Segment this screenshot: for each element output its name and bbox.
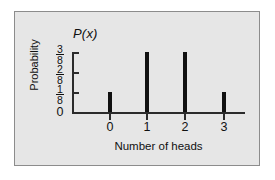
y-axis-title: Probability (28, 27, 40, 103)
y-tick-label-1-8-denominator: 8 (51, 96, 69, 105)
y-axis-line (72, 52, 74, 114)
bar-3 (222, 92, 226, 112)
x-tick-label-2: 2 (174, 120, 196, 134)
y-tick-label-1-8-numerator: 1 (51, 85, 69, 94)
bar-0 (108, 92, 112, 112)
bar-1 (145, 52, 149, 112)
x-tick-label-1: 1 (136, 120, 158, 134)
y-tick-label-1-8: 1 8 (51, 85, 69, 104)
y-tick-label-2-8: 2 8 (51, 65, 69, 84)
x-axis-title: Number of heads (72, 140, 245, 152)
y-tick-label-3-8-numerator: 3 (51, 45, 69, 54)
x-axis-line (72, 112, 245, 114)
y-axis-symbol-label: P(x) (73, 26, 98, 41)
y-tick-label-2-8-numerator: 2 (51, 65, 69, 74)
probability-distribution-chart: P(x) Probability 3 8 2 8 1 8 0 (15, 12, 261, 167)
y-tick-3-8 (72, 52, 79, 54)
y-tick-label-0: 0 (51, 105, 69, 119)
bar-2 (183, 52, 187, 112)
y-tick-2-8 (72, 72, 79, 74)
x-tick-label-0: 0 (99, 120, 121, 134)
figure-frame: P(x) Probability 3 8 2 8 1 8 0 (14, 11, 260, 166)
y-tick-label-3-8: 3 8 (51, 45, 69, 64)
x-tick-label-3: 3 (213, 120, 235, 134)
y-tick-1-8 (72, 92, 79, 94)
